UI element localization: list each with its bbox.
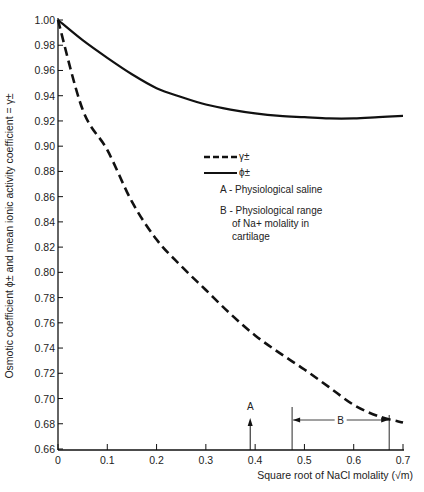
x-axis-title: Square root of NaCl molality (√m) [257,469,413,481]
y-axis-ticks: 1.000.980.960.940.920.900.880.860.840.82… [35,14,63,455]
chart: 1.000.980.960.940.920.900.880.860.840.82… [0,0,424,492]
annotation-a-text: A - Physiological saline [220,184,323,195]
y-tick-label: 0.74 [35,342,56,354]
gamma-dashed-curve [58,20,403,423]
y-tick-label: 0.80 [35,266,56,278]
y-tick-label: 1.00 [35,14,56,26]
phi-solid-curve [58,20,403,119]
y-tick-label: 0.96 [35,64,56,76]
x-tick-label: 0.5 [297,454,312,466]
y-tick-label: 0.72 [35,367,56,379]
x-tick-label: 0.2 [149,454,164,466]
annotation-b-text-line2: of Na+ molality in [232,218,309,229]
x-tick-label: 0.4 [248,454,263,466]
x-tick-label: 0.3 [199,454,214,466]
x-tick-label: 0.1 [100,454,115,466]
annotation-a-label: A [247,401,254,412]
y-tick-label: 0.84 [35,216,56,228]
legend-label-gamma: γ± [239,151,250,162]
annotation-b-label: B [337,415,344,426]
annotation-b-text-line1: B - Physiological range [220,205,323,216]
y-tick-label: 0.92 [35,115,56,127]
annotation-b-text-line3: cartilage [232,231,270,242]
y-tick-label: 0.98 [35,39,56,51]
y-tick-label: 0.94 [35,90,56,102]
x-tick-label: 0.6 [346,454,361,466]
y-tick-label: 0.82 [35,241,56,253]
legend: γ± ϕ± [204,151,251,178]
x-tick-label: 0.7 [396,454,411,466]
y-tick-label: 0.76 [35,317,56,329]
y-tick-label: 0.88 [35,165,56,177]
y-axis-title: Osmotic coefficient ϕ± and mean ionic ac… [3,93,15,378]
annotation-a-marker: A [247,401,254,450]
y-tick-label: 0.78 [35,292,56,304]
y-tick-label: 0.70 [35,393,56,405]
y-tick-label: 0.86 [35,191,56,203]
y-tick-label: 0.90 [35,140,56,152]
legend-label-phi: ϕ± [239,167,251,178]
x-axis-ticks: 00.10.20.30.40.50.60.7 [55,444,410,466]
x-tick-label: 0 [55,454,61,466]
y-tick-label: 0.66 [35,443,56,455]
y-tick-label: 0.68 [35,418,56,430]
